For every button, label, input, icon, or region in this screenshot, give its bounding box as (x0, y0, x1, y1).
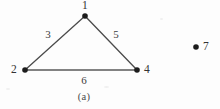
figure-caption: (a) (78, 92, 90, 103)
vertex-label-4: 4 (144, 64, 150, 76)
edge-label-5: 5 (113, 29, 119, 40)
edge-2-1 (25, 16, 85, 70)
vertex-dot-1 (82, 13, 88, 19)
graph-canvas (0, 0, 220, 109)
edge-label-3: 3 (45, 29, 51, 40)
vertex-dot-4 (134, 67, 140, 73)
vertex-label-7: 7 (203, 41, 209, 53)
edge-1-4 (85, 16, 137, 70)
vertex-dot-2 (22, 67, 28, 73)
vertex-label-2: 2 (11, 64, 17, 76)
figure-panel: 1 2 4 7 3 5 6 (a) (0, 0, 220, 109)
edge-label-6: 6 (81, 75, 87, 86)
vertex-label-1: 1 (82, 0, 88, 12)
vertex-dot-7 (193, 44, 199, 50)
